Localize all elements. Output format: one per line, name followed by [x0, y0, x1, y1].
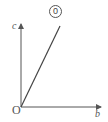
origin-label: O	[12, 104, 21, 116]
circled-ray-label: 0	[49, 5, 62, 18]
vertical-axis-label: c	[12, 21, 16, 31]
slanted-ray	[21, 26, 60, 107]
horizontal-axis-label: b	[95, 109, 100, 119]
ray-label-text: 0	[53, 7, 58, 16]
diagram-canvas: O c b 0	[0, 0, 108, 122]
